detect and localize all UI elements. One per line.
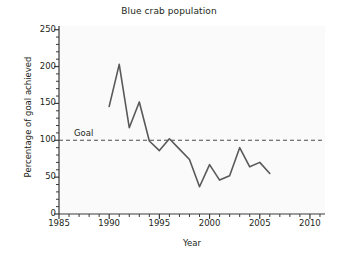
chart-canvas xyxy=(0,0,338,265)
data-line xyxy=(109,64,270,186)
data-series-group xyxy=(109,64,270,186)
axes-group xyxy=(54,26,325,219)
chart-figure: Blue crab population Percentage of goal … xyxy=(0,0,338,265)
